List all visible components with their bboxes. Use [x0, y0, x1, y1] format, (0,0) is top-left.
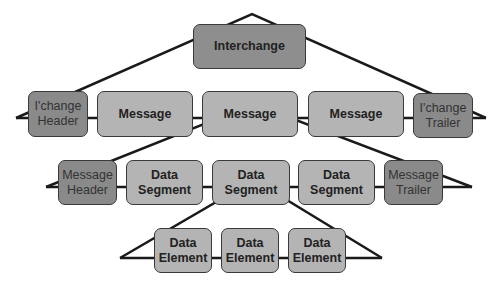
data-segment-box-2: Data Segment: [212, 160, 290, 205]
message-label-1: Message: [119, 107, 172, 122]
interchange-header-label: I'change Header: [35, 99, 82, 129]
data-segment-box-1: Data Segment: [126, 160, 203, 205]
message-trailer-label: Message Trailer: [388, 168, 439, 198]
interchange-header-box: I'change Header: [28, 91, 88, 137]
data-segment-label-1: Data Segment: [138, 168, 191, 198]
message-label-2: Message: [224, 107, 277, 122]
message-box-1: Message: [97, 91, 193, 137]
data-element-label-3: Data Element: [293, 236, 342, 266]
data-segment-label-3: Data Segment: [310, 168, 363, 198]
message-header-box: Message Header: [58, 160, 117, 205]
message-header-label: Message Header: [62, 168, 113, 198]
data-element-box-3: Data Element: [288, 228, 346, 273]
interchange-trailer-box: I'change Trailer: [413, 93, 473, 138]
data-element-label-2: Data Element: [226, 236, 275, 266]
data-element-label-1: Data Element: [159, 236, 208, 266]
data-segment-label-2: Data Segment: [225, 168, 278, 198]
message-label-3: Message: [330, 107, 383, 122]
data-element-box-2: Data Element: [221, 228, 279, 273]
message-trailer-box: Message Trailer: [384, 160, 443, 205]
interchange-label: Interchange: [214, 39, 285, 54]
data-element-box-1: Data Element: [154, 228, 212, 273]
interchange-box: Interchange: [193, 24, 306, 69]
data-segment-box-3: Data Segment: [298, 160, 375, 205]
interchange-trailer-label: I'change Trailer: [420, 101, 467, 131]
message-box-3: Message: [308, 91, 404, 137]
message-box-2: Message: [202, 91, 298, 137]
